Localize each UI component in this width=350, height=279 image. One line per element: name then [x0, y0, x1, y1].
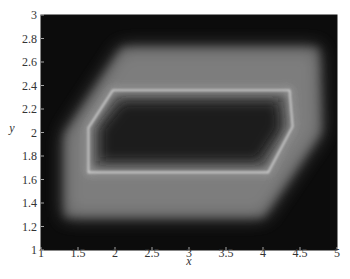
- y-tick-label: 1.6: [22, 173, 37, 187]
- y-axis-label: y: [8, 121, 15, 135]
- heatmap-figure: 11.522.533.544.55 11.21.41.61.822.22.42.…: [0, 0, 350, 279]
- y-tick-label: 3: [31, 8, 37, 22]
- x-tick-label: 1.5: [71, 246, 86, 260]
- x-tick-label: 4.5: [293, 246, 308, 260]
- plot-area: [41, 15, 337, 250]
- x-tick-label: 3.5: [219, 246, 234, 260]
- y-tick-label: 2.4: [22, 79, 37, 93]
- x-tick-label: 1: [38, 246, 44, 260]
- y-tick-label: 2.2: [22, 102, 37, 116]
- y-tick-label: 2.8: [22, 32, 37, 46]
- y-tick-label: 2: [31, 126, 37, 140]
- y-tick-label: 1.2: [22, 220, 37, 234]
- x-axis-label: x: [185, 254, 192, 268]
- y-tick-label: 1: [31, 243, 37, 257]
- x-tick-label: 2.5: [145, 246, 160, 260]
- y-tick-label: 1.8: [22, 149, 37, 163]
- x-tick-label: 2: [112, 246, 118, 260]
- x-tick-label: 5: [334, 246, 340, 260]
- y-tick-label: 2.6: [22, 55, 37, 69]
- y-tick-label: 1.4: [22, 196, 37, 210]
- interior-dark-core: [100, 102, 280, 161]
- x-tick-label: 4: [260, 246, 266, 260]
